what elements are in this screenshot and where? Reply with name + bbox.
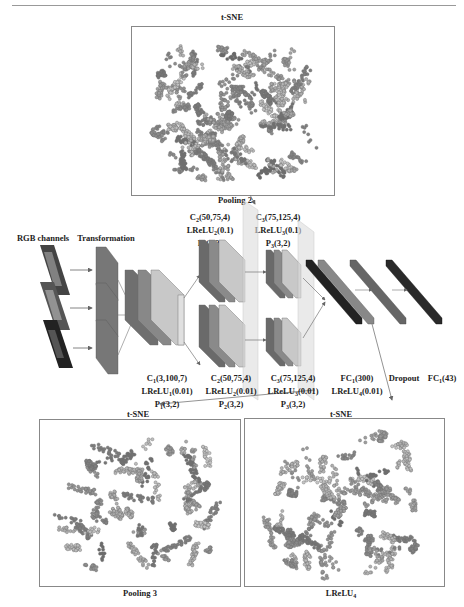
- top-tsne-title: t-SNE: [200, 12, 264, 22]
- bottom-left-tsne-plot: [39, 419, 241, 587]
- fc1-label: FC1(300) LReLU4(0.01): [330, 373, 384, 399]
- rgb-input-images: [40, 245, 73, 368]
- top-tsne-plot: [131, 26, 335, 196]
- stage3-bottom-label: C3(75,125,4) LReLU3(0.01) P3(3,2): [262, 373, 324, 412]
- bottom-right-tsne-plot: [244, 418, 445, 587]
- scatter-points: [40, 420, 240, 586]
- bottom-left-tsne-caption: Pooling 3: [110, 588, 170, 598]
- dropout-label: Dropout: [386, 373, 422, 383]
- fc2-label: FC1(43): [424, 373, 460, 386]
- stage1-label: C1(3,100,7) LReLU1(0.01) P1(3,2): [138, 373, 196, 412]
- bottom-left-tsne-title: t-SNE: [118, 409, 158, 419]
- scatter-points: [132, 27, 334, 195]
- stage2-bottom-label: C2(50,75,4) LReLU2(0.01) P2(3,2): [202, 373, 260, 412]
- scatter-points: [245, 419, 444, 586]
- header-rule: [12, 5, 456, 6]
- bottom-right-tsne-caption: LReLU4: [316, 588, 366, 601]
